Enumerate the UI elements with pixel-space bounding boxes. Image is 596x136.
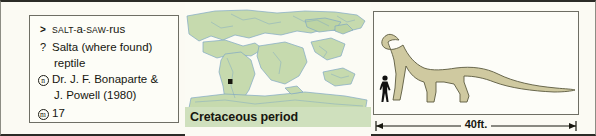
circled-m-symbol-icon: m: [36, 107, 50, 120]
paleogeographic-map-panel: Cretaceous period: [185, 2, 371, 136]
pronunciation-value: SALT-a-SAW-rus: [52, 23, 125, 37]
size-comparison-illustration: [374, 12, 578, 114]
fossil-find-marker-icon: [228, 79, 233, 84]
greater-than-symbol-icon: >: [36, 23, 50, 36]
dinosaur-entry-page: > SALT-a-SAW-rus ? Salta (where found) r…: [0, 0, 596, 136]
fact-row-meaning: ? Salta (where found): [36, 41, 152, 54]
pron-part-0: SALT: [52, 25, 73, 35]
question-mark-symbol-icon: ?: [36, 41, 50, 54]
pron-part-6: rus: [109, 23, 125, 35]
fact-row-entry-number: m 17: [36, 107, 65, 120]
entry-number-value: 17: [52, 107, 65, 120]
fact-row-meaning-cont: reptile: [52, 57, 85, 70]
map-caption: Cretaceous period: [190, 110, 298, 124]
meaning-value: Salta (where found): [52, 41, 152, 54]
named-by-value-line2: J. Powell (1980): [54, 89, 136, 102]
fact-row-named-by-cont: J. Powell (1980): [52, 89, 136, 102]
pron-part-4: SAW: [86, 25, 106, 35]
meaning-value-line2: reptile: [54, 57, 85, 70]
size-comparison-panel: [373, 11, 579, 115]
named-by-value: Dr. J. F. Bonaparte &: [52, 73, 158, 86]
facts-panel: > SALT-a-SAW-rus ? Salta (where found) r…: [29, 15, 179, 123]
fact-row-pronunciation: > SALT-a-SAW-rus: [36, 23, 125, 37]
circled-n-symbol-icon: n: [36, 73, 50, 86]
map-bottom-strip: [185, 127, 371, 136]
scale-bar: 40ft.: [373, 118, 579, 134]
scale-bar-label: 40ft.: [373, 118, 579, 130]
fact-row-named-by: n Dr. J. F. Bonaparte &: [36, 73, 158, 86]
